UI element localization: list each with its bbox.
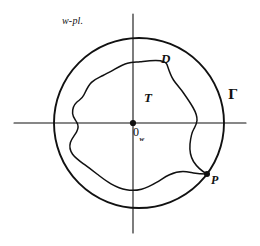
w-plane-figure: w-pl. D T Γ 0w P: [0, 0, 260, 246]
inner-region-label-t: T: [144, 91, 152, 104]
figure-canvas: [0, 0, 260, 246]
plane-label: w-pl.: [62, 16, 83, 26]
tangency-point-marker: [204, 171, 210, 177]
boundary-circle-label-gamma: Γ: [228, 88, 237, 101]
outer-region-label-d: D: [161, 52, 170, 65]
origin-label-text: 0: [133, 125, 139, 139]
origin-label: 0w: [133, 126, 144, 141]
tangency-point-label-p: P: [211, 174, 218, 186]
origin-label-subscript: w: [140, 135, 145, 143]
